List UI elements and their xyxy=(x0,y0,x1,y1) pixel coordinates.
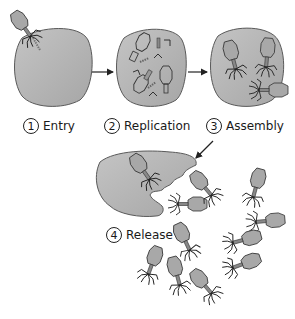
step-number-1: 1 xyxy=(23,118,39,134)
step-text-release: Release xyxy=(126,228,173,242)
step-number-3: 3 xyxy=(206,118,222,134)
release-cell xyxy=(96,149,207,216)
step-label-assembly: 3 Assembly xyxy=(206,118,284,134)
step-text-entry: Entry xyxy=(43,119,75,133)
step-text-assembly: Assembly xyxy=(226,119,284,133)
step-label-replication: 2 Replication xyxy=(104,118,190,134)
step-number-4: 4 xyxy=(106,227,122,243)
step-label-entry: 1 Entry xyxy=(23,118,75,134)
step-label-release: 4 Release xyxy=(106,227,173,243)
step-number-2: 2 xyxy=(104,118,120,134)
entry-cell xyxy=(5,6,92,106)
arrow-assembly-to-release xyxy=(196,141,213,158)
assembly-cell xyxy=(211,28,289,106)
replication-cell xyxy=(117,29,187,106)
phage-lifecycle-diagram xyxy=(0,0,295,319)
step-text-replication: Replication xyxy=(124,119,190,133)
